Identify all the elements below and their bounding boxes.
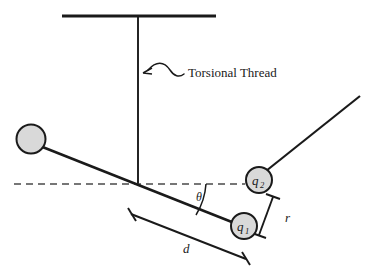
charge-label-q2-symbol: q — [252, 173, 259, 188]
charge-label-q1-symbol: q — [237, 219, 244, 234]
charge-sphere-q2 — [246, 167, 272, 193]
separation-label-r: r — [285, 210, 291, 225]
torsion-balance-figure: Torsional Thread θ r d q 1 q 2 — [0, 0, 370, 273]
counterweight-sphere — [17, 125, 46, 154]
fixed-charge-rod — [266, 96, 360, 171]
squiggle-pointer-arrow — [143, 63, 184, 76]
arm-length-label-d: d — [183, 241, 190, 256]
torsional-thread-label: Torsional Thread — [188, 65, 277, 80]
balance-rod — [40, 146, 252, 230]
diagram-canvas: Torsional Thread θ r d q 1 q 2 — [0, 0, 370, 273]
charge-label-q1-subscript: 1 — [245, 226, 249, 236]
charge-sphere-q1 — [231, 213, 257, 239]
dimension-bracket-d — [128, 208, 250, 265]
angle-label-theta: θ — [196, 190, 202, 204]
